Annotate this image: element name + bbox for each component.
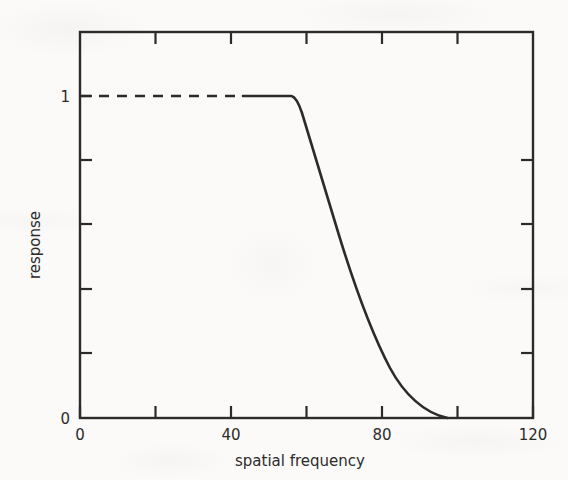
series-response-curve (243, 96, 448, 418)
chart-plot: 0 40 80 120 1 0 spatial frequency respon… (0, 0, 568, 480)
y-axis-title: response (26, 211, 44, 279)
y-axis-ticks-left (80, 96, 92, 353)
x-tick-label-40: 40 (221, 426, 240, 444)
y-axis-ticks-right (521, 160, 533, 353)
x-axis-ticks-top (156, 32, 458, 44)
x-axis-ticks-bottom (80, 406, 533, 418)
y-tick-label-1: 1 (60, 88, 70, 106)
x-tick-label-0: 0 (75, 426, 85, 444)
x-tick-label-120: 120 (519, 426, 548, 444)
axes-spines (80, 32, 533, 418)
x-axis-title: spatial frequency (235, 452, 365, 470)
axes-frame (80, 32, 533, 418)
figure-canvas: 0 40 80 120 1 0 spatial frequency respon… (0, 0, 568, 480)
x-tick-label-80: 80 (372, 426, 391, 444)
y-tick-label-0: 0 (60, 410, 70, 428)
